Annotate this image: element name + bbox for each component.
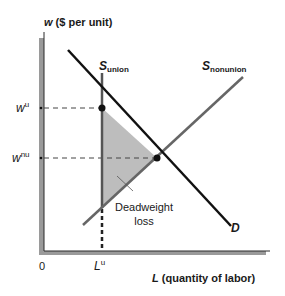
y-axis-title: w ($ per unit)	[44, 16, 113, 28]
deadweight-loss-line1: Deadweight	[115, 201, 173, 213]
labor-union-label: Lu	[94, 258, 105, 273]
supply-union-sub: union	[107, 65, 129, 74]
wage-union-tick	[40, 107, 43, 110]
union-wage-point	[99, 105, 106, 112]
wage-union-label: wu	[16, 100, 29, 115]
labor-union-sup: u	[101, 258, 105, 267]
x-axis-title: L (quantity of labor)	[152, 272, 256, 284]
deadweight-loss-line2: loss	[134, 215, 154, 227]
equilibrium-point	[154, 155, 161, 162]
x-axis-shadow	[39, 251, 266, 255]
origin-label: 0	[39, 260, 45, 272]
supply-union-label: Sunion	[99, 59, 129, 74]
y-axis-shadow	[39, 38, 44, 254]
supply-nonunion-sub: nonunion	[210, 65, 247, 74]
supply-nonunion-base: S	[202, 59, 210, 73]
labor-union-base: L	[94, 259, 101, 273]
labor-market-diagram: w ($ per unit) L (quantity of labor) 0 w…	[0, 0, 285, 296]
demand-label: D	[231, 221, 240, 235]
x-axis-units: (quantity of labor)	[159, 272, 256, 284]
demand-curve	[68, 50, 231, 226]
wage-nonunion-sup: nu	[21, 150, 30, 159]
wage-union-sup: u	[25, 100, 29, 109]
supply-union-base: S	[99, 59, 107, 73]
wage-nonunion-label: wnu	[12, 150, 30, 165]
supply-nonunion-label: Snonunion	[202, 59, 247, 74]
y-axis-units: ($ per unit)	[53, 16, 113, 28]
wage-nonunion-tick	[40, 157, 43, 160]
